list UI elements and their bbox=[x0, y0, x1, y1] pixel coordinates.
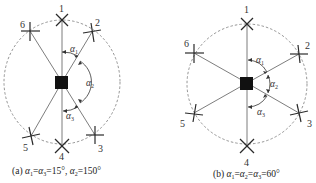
rotor-3-cross-icon bbox=[290, 104, 308, 122]
caption-a: (a) α1=α3=15°, α2=150° bbox=[12, 166, 101, 177]
rotor-label-1: 1 bbox=[244, 4, 249, 15]
rotor-label-3: 3 bbox=[98, 143, 103, 154]
rotor-label-3: 3 bbox=[307, 118, 312, 129]
rotor-label-2: 2 bbox=[305, 40, 310, 51]
angle-label-alpha3: α3 bbox=[66, 111, 74, 122]
angle-label-alpha1: α1 bbox=[70, 44, 78, 55]
rotor-3-cross-icon bbox=[86, 126, 104, 144]
angle-label-alpha3: α3 bbox=[257, 107, 265, 118]
rotor-label-5: 5 bbox=[180, 118, 185, 129]
center-body-square bbox=[55, 76, 68, 89]
rotor-label-1: 1 bbox=[59, 3, 64, 14]
panel-b: 1 2 3 4 5 6 α1 α2 α3 (b) α1=α2=α3=60° bbox=[180, 4, 312, 180]
rotor-label-6: 6 bbox=[184, 38, 189, 49]
center-body-square bbox=[240, 77, 253, 90]
rotor-label-2: 2 bbox=[95, 17, 100, 28]
angle-label-alpha1: α1 bbox=[256, 55, 264, 66]
rotor-label-6: 6 bbox=[20, 19, 25, 30]
caption-b: (b) α1=α2=α3=60° bbox=[213, 169, 280, 180]
rotor-label-4: 4 bbox=[244, 157, 249, 168]
angle-label-alpha2: α2 bbox=[270, 79, 278, 90]
rotor-5-cross-icon bbox=[185, 104, 203, 122]
rotor-label-5: 5 bbox=[23, 142, 28, 153]
rotor-label-4: 4 bbox=[59, 151, 64, 162]
angle-label-alpha2: α2 bbox=[86, 78, 94, 89]
panel-a: 1 2 3 4 5 6 α1 α2 α3 (a) α1=α3=15°, α2=1… bbox=[4, 3, 120, 177]
